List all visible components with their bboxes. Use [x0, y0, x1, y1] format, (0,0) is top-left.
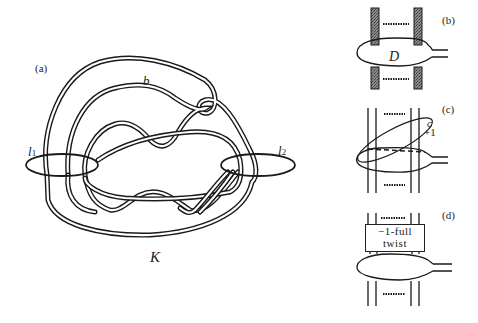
- strand-right-bottom: [414, 67, 422, 89]
- knot-diagram-figure: [0, 0, 478, 323]
- loop-label-l1-sub: 1: [32, 148, 37, 158]
- loop-label-l1: l1: [28, 144, 36, 160]
- curve-c: [353, 111, 437, 170]
- panel-a-knot-K: [26, 58, 295, 235]
- loop-label-l2-sub: 2: [282, 147, 287, 157]
- twist-box-line1: −1-full: [366, 225, 424, 237]
- disk-label-D: D: [389, 49, 399, 65]
- panel-d-label: (d): [442, 209, 455, 221]
- panel-b: [357, 8, 448, 89]
- strand-left-bottom: [371, 67, 379, 89]
- panel-c-label: (c): [442, 103, 454, 115]
- twist-box-line2: twist: [366, 237, 424, 249]
- panel-c: [353, 108, 448, 193]
- twist-box: −1-full twist: [365, 224, 425, 252]
- panel-b-label: (b): [442, 14, 455, 26]
- framing-label-plus-one: +1: [424, 126, 436, 138]
- loop-l1: [26, 154, 98, 176]
- band-label-b: b: [143, 73, 150, 89]
- knot-label-K: K: [150, 249, 160, 266]
- panel-a-label: (a): [35, 62, 47, 74]
- loop-label-l2: l2: [278, 143, 286, 159]
